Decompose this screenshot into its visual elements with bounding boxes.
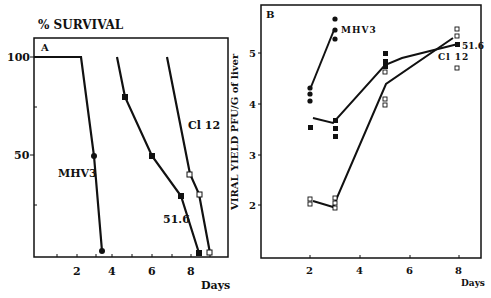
y-tick-50: 50 bbox=[14, 149, 30, 162]
x-tick-b-4: 4 bbox=[356, 265, 363, 276]
label-mhv3-b: MHV3 bbox=[341, 25, 377, 35]
x-axis-label-days: Days bbox=[201, 279, 230, 292]
panel-b-letter: B bbox=[266, 9, 274, 20]
x-tick-2: 2 bbox=[73, 265, 81, 278]
label-mhv3-a: MHV3 bbox=[58, 167, 97, 180]
label-51-6-a: 51.6 bbox=[163, 213, 190, 226]
label-cl12-a: Cl 12 bbox=[188, 119, 220, 132]
x-tick-b-8: 8 bbox=[455, 265, 462, 276]
label-51-6-b: 51.6 bbox=[462, 41, 484, 51]
panel-b: B 5 4 3 2 2 4 6 8 Days bbox=[249, 5, 485, 288]
y-tick-5: 5 bbox=[249, 48, 256, 59]
y-tick-100: 100 bbox=[7, 51, 30, 64]
panel-a-letter: A bbox=[40, 42, 49, 53]
x-tick-8: 8 bbox=[187, 265, 195, 278]
y-axis-label-viral-yield: VIRAL YIELD PFU/G of liver bbox=[229, 53, 240, 211]
series-mhv3-b bbox=[311, 30, 334, 87]
panel-a-frame bbox=[34, 38, 228, 257]
x-axis-label-days-b: Days bbox=[461, 278, 485, 288]
y-tick-2: 2 bbox=[249, 200, 256, 211]
panel-b-frame bbox=[261, 5, 481, 258]
x-tick-b-2: 2 bbox=[306, 265, 313, 276]
label-cl12-b: Cl 12 bbox=[438, 52, 469, 62]
y-tick-3: 3 bbox=[249, 150, 256, 161]
panel-a: % SURVIVAL A 100 50 2 4 6 8 Days bbox=[7, 18, 230, 292]
figure: % SURVIVAL A 100 50 2 4 6 8 Days bbox=[0, 0, 491, 298]
y-tick-4: 4 bbox=[249, 99, 256, 110]
x-tick-6: 6 bbox=[148, 265, 156, 278]
x-tick-4: 4 bbox=[108, 265, 116, 278]
survival-title: % SURVIVAL bbox=[38, 18, 124, 32]
x-tick-b-6: 6 bbox=[406, 265, 413, 276]
